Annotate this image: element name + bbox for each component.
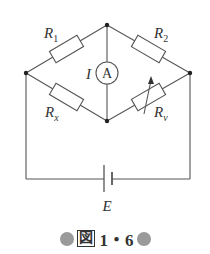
- resistor-rx: Rx: [26, 73, 107, 123]
- node-bottom: [105, 119, 109, 123]
- current-label: I: [85, 66, 92, 82]
- emf-label: E: [101, 198, 111, 214]
- node-top: [105, 23, 109, 27]
- ammeter-label: A: [102, 66, 113, 81]
- figure-kanji: 図: [77, 230, 95, 247]
- r1-label: R1: [43, 25, 58, 44]
- figure-caption: 図 1・6: [0, 226, 210, 251]
- resistor-r2: R2: [107, 25, 190, 73]
- battery-icon: [104, 165, 112, 192]
- variable-resistor-rv: Rv: [107, 73, 190, 123]
- figure-number: 1・6: [100, 226, 134, 251]
- node-left: [24, 71, 28, 75]
- node-right: [188, 71, 192, 75]
- rv-label: Rv: [153, 104, 168, 123]
- wheatstone-bridge-diagram: R1 R2 Rx Rv A I: [0, 0, 210, 254]
- r2-label: R2: [153, 25, 168, 44]
- caption-dot-right-icon: [137, 232, 151, 246]
- resistor-r1: R1: [26, 25, 107, 73]
- caption-dot-left-icon: [60, 232, 74, 246]
- ammeter: A I: [85, 25, 118, 121]
- rx-label: Rx: [44, 104, 59, 123]
